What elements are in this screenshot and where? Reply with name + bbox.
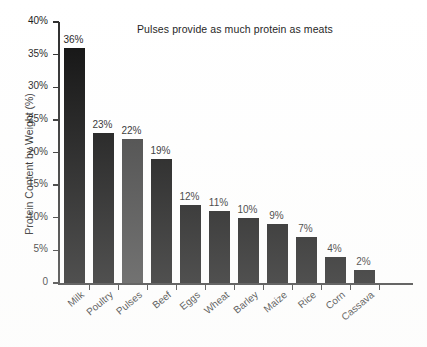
bar-value-corn: 4% bbox=[318, 243, 352, 254]
x-tick-8 bbox=[321, 284, 322, 290]
bar-value-beef: 19% bbox=[144, 145, 178, 156]
x-tick-4 bbox=[205, 284, 206, 290]
x-tick-3 bbox=[176, 284, 177, 290]
bar-pulses bbox=[122, 139, 143, 283]
bar-wheat bbox=[209, 211, 230, 283]
x-tick-0 bbox=[89, 284, 90, 290]
x-axis-line bbox=[58, 283, 413, 285]
bar-cassava bbox=[354, 270, 375, 283]
category-label-milk: Milk bbox=[33, 289, 86, 336]
bar-value-rice: 7% bbox=[289, 223, 323, 234]
bar-barley bbox=[238, 218, 259, 283]
x-tick-2 bbox=[147, 284, 148, 290]
bar-maize bbox=[267, 224, 288, 283]
x-tick-5 bbox=[234, 284, 235, 290]
bar-eggs bbox=[180, 205, 201, 283]
bar-corn bbox=[325, 257, 346, 283]
bar-value-maize: 9% bbox=[260, 210, 294, 221]
x-tick-10 bbox=[379, 284, 380, 290]
x-tick-9 bbox=[350, 284, 351, 290]
bar-chart: Pulses provide as much protein as meats … bbox=[0, 0, 427, 347]
x-tick-6 bbox=[263, 284, 264, 290]
bar-value-cassava: 2% bbox=[347, 256, 381, 267]
bar-beef bbox=[151, 159, 172, 283]
bar-value-milk: 36% bbox=[57, 34, 91, 45]
x-tick-7 bbox=[292, 284, 293, 290]
bar-value-pulses: 22% bbox=[115, 125, 149, 136]
x-tick-1 bbox=[118, 284, 119, 290]
bar-poultry bbox=[93, 133, 114, 283]
bar-milk bbox=[64, 48, 85, 283]
bar-rice bbox=[296, 237, 317, 283]
